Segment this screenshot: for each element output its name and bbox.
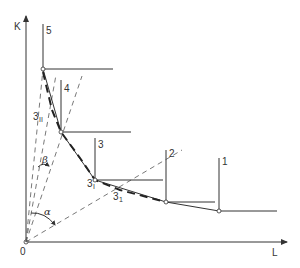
- label-3-1-sub: 1: [119, 196, 123, 203]
- point-label-2: 2: [169, 148, 175, 159]
- origin-label: 0: [20, 246, 26, 257]
- point-label-4: 4: [64, 83, 70, 94]
- isoquant-lines: [43, 24, 277, 211]
- point-label-3: 3: [98, 139, 104, 150]
- beta-label: β: [41, 154, 48, 165]
- production-isoquant-diagram: K L 0 5 4 3 2 1 3 II 3 I 3 1 α β: [0, 0, 300, 268]
- label-3-i-sub: I: [93, 183, 95, 190]
- point-label-1: 1: [222, 156, 228, 167]
- alpha-label: α: [44, 206, 51, 217]
- point-label-5: 5: [46, 25, 52, 36]
- k-axis-label: K: [14, 21, 21, 32]
- l-axis-label: L: [272, 247, 278, 258]
- label-3-ii-sub: II: [39, 116, 43, 123]
- alpha-arc: [31, 213, 55, 225]
